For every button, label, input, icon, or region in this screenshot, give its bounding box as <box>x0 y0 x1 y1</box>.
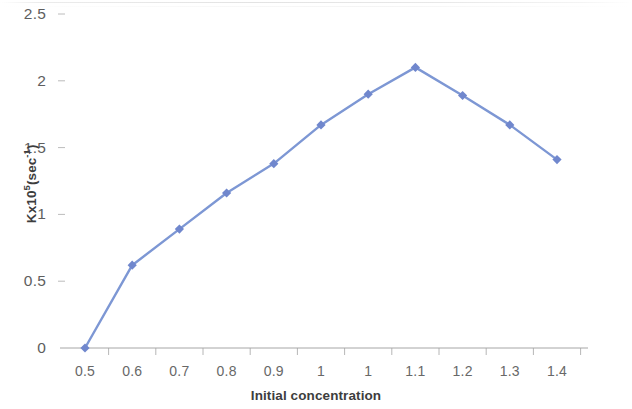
x-tick-label: 0.9 <box>254 364 294 378</box>
x-tick-label: 0.8 <box>207 364 247 378</box>
x-tick-label: 1.2 <box>443 364 483 378</box>
chart-container: 00.511.522.5 0.50.60.70.80.9111.11.21.31… <box>0 0 632 409</box>
y-axis-title: Kx105(sec-1) <box>21 94 39 274</box>
y-axis-title-unit-open: (sec <box>24 158 39 185</box>
y-axis-title-unit-close: ) <box>24 144 39 149</box>
data-series-markers <box>80 63 561 353</box>
x-tick-label: 0.5 <box>65 364 105 378</box>
y-axis-title-exponent: 5 <box>21 185 32 190</box>
x-tick-label: 1.1 <box>395 364 435 378</box>
x-tick-label: 0.6 <box>112 364 152 378</box>
x-axis-title: Initial concentration <box>0 388 632 403</box>
y-axis-tick-marks <box>58 14 65 348</box>
y-axis-title-base: Kx10 <box>24 190 39 223</box>
y-tick-label: 2.5 <box>2 6 46 22</box>
data-series-line <box>85 67 557 348</box>
x-tick-label: 1.4 <box>537 364 577 378</box>
y-tick-label: 2 <box>2 73 46 89</box>
line-chart-plot <box>0 0 632 409</box>
y-tick-label: 0 <box>2 340 46 356</box>
x-axis-tick-marks <box>109 348 581 355</box>
y-tick-label: 0.5 <box>2 273 46 289</box>
x-tick-label: 1 <box>348 364 388 378</box>
series-polyline <box>85 67 557 348</box>
x-tick-label: 1 <box>301 364 341 378</box>
x-tick-label: 1.3 <box>490 364 530 378</box>
x-tick-label: 0.7 <box>159 364 199 378</box>
data-point-marker <box>80 343 89 352</box>
y-axis-title-unit-exponent: -1 <box>21 149 32 158</box>
